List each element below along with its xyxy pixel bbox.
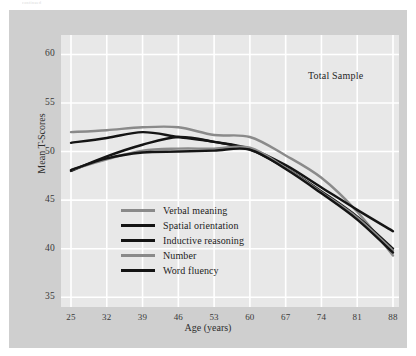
x-tick-label: 60 <box>237 312 263 322</box>
y-tick-label: 45 <box>29 194 55 204</box>
x-tick-label: 46 <box>165 312 191 322</box>
chart-legend: Verbal meaning Spatial orientation Induc… <box>121 203 291 278</box>
legend-swatch-word-fluency <box>121 269 155 272</box>
legend-label: Number <box>163 250 196 261</box>
y-tick-label: 35 <box>29 291 55 301</box>
x-tick-label: 67 <box>273 312 299 322</box>
legend-label: Verbal meaning <box>163 205 227 216</box>
chart-annotation: Total Sample <box>308 70 363 81</box>
legend-item[interactable]: Spatial orientation <box>121 218 291 233</box>
chart-figure: continued Mean T-Scores Total Sample Ver… <box>0 0 416 356</box>
x-axis-label: Age (years) <box>0 322 416 333</box>
legend-swatch-verbal-meaning <box>121 209 155 212</box>
legend-item[interactable]: Number <box>121 248 291 263</box>
x-tick-label: 53 <box>201 312 227 322</box>
x-tick-label: 39 <box>130 312 156 322</box>
y-tick-label: 55 <box>29 97 55 107</box>
x-tick-label: 88 <box>380 312 406 322</box>
chart-panel: Mean T-Scores Total Sample Verbal meanin… <box>9 10 407 348</box>
y-tick-label: 50 <box>29 146 55 156</box>
legend-swatch-inductive-reasoning <box>121 239 155 242</box>
y-tick-label: 40 <box>29 243 55 253</box>
legend-label: Spatial orientation <box>163 220 239 231</box>
top-caption: continued <box>22 0 162 7</box>
legend-item[interactable]: Verbal meaning <box>121 203 291 218</box>
legend-label: Word fluency <box>163 265 219 276</box>
legend-item[interactable]: Inductive reasoning <box>121 233 291 248</box>
x-tick-label: 25 <box>58 312 84 322</box>
x-tick-label: 81 <box>344 312 370 322</box>
legend-item[interactable]: Word fluency <box>121 263 291 278</box>
x-tick-label: 74 <box>308 312 334 322</box>
x-tick-label: 32 <box>94 312 120 322</box>
legend-label: Inductive reasoning <box>163 235 244 246</box>
legend-swatch-number <box>121 254 155 257</box>
y-tick-label: 60 <box>29 48 55 58</box>
legend-swatch-spatial-orientation <box>121 224 155 227</box>
